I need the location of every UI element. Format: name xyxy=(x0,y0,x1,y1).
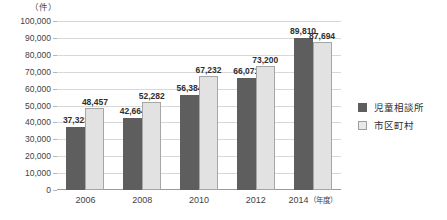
bar-value-label: 48,457 xyxy=(82,98,108,107)
legend-item[interactable]: 児童相談所 xyxy=(358,98,424,116)
bar-group: 66,07173,2002012 xyxy=(237,21,275,190)
y-axis-tickmark xyxy=(53,55,57,56)
bar[interactable]: 66,071 xyxy=(237,78,256,190)
bar-group: 37,32348,4572006 xyxy=(66,21,104,190)
x-axis-tick-label: 2014（年度） xyxy=(289,195,337,206)
y-axis-tick-label: 50,000 xyxy=(25,101,51,110)
y-axis-tick-label: 40,000 xyxy=(25,118,51,127)
bar[interactable]: 67,232 xyxy=(199,76,218,190)
y-axis-tickmark xyxy=(53,156,57,157)
y-axis-tickmark xyxy=(53,72,57,73)
x-axis-tick-label: 2012 xyxy=(246,195,266,205)
y-axis-tick-label: 100,000 xyxy=(20,17,51,26)
y-axis-tick-label: 90,000 xyxy=(25,33,51,42)
bar-value-label: 87,694 xyxy=(309,32,335,41)
legend-label: 児童相談所 xyxy=(374,102,424,113)
bar[interactable]: 87,694 xyxy=(313,42,332,190)
bar[interactable]: 89,810 xyxy=(294,38,313,190)
chart-legend: 児童相談所市区町村 xyxy=(358,98,424,134)
plot-area: 100,00090,00080,00070,00060,00050,00040,… xyxy=(57,21,341,190)
y-axis-tick-label: 10,000 xyxy=(25,169,51,178)
clipped-top-caption xyxy=(60,0,380,2)
bar-value-label: 67,232 xyxy=(196,66,222,75)
y-axis-tickmark xyxy=(53,173,57,174)
y-axis-tickmark xyxy=(53,106,57,107)
x-axis-tick-label: 2006 xyxy=(75,195,95,205)
y-axis-tick-label: 70,000 xyxy=(25,67,51,76)
y-axis-unit-label: （件） xyxy=(30,2,57,12)
bar-value-label: 73,200 xyxy=(252,56,278,65)
bar[interactable]: 48,457 xyxy=(85,108,104,190)
y-axis-tickmark xyxy=(53,89,57,90)
y-axis-tick-label: 0 xyxy=(46,186,51,195)
bar[interactable]: 73,200 xyxy=(256,66,275,190)
legend-swatch xyxy=(358,121,367,130)
bar[interactable]: 52,282 xyxy=(142,102,161,190)
x-axis-tick-label: 2010 xyxy=(189,195,209,205)
bar[interactable]: 37,323 xyxy=(66,127,85,190)
y-axis-tickmark xyxy=(53,139,57,140)
x-axis-tick-label: 2008 xyxy=(132,195,152,205)
legend-label: 市区町村 xyxy=(374,120,414,131)
y-axis-tick-label: 20,000 xyxy=(25,152,51,161)
chart-figure: （件） 100,00090,00080,00070,00060,00050,00… xyxy=(0,0,447,220)
bar[interactable]: 56,384 xyxy=(180,95,199,190)
legend-item[interactable]: 市区町村 xyxy=(358,116,424,134)
bar[interactable]: 42,664 xyxy=(123,118,142,190)
bar-group: 42,66452,2822008 xyxy=(123,21,161,190)
y-axis-tickmark xyxy=(53,38,57,39)
y-axis-tickmark xyxy=(53,21,57,22)
x-axis-unit-suffix: （年度） xyxy=(309,196,337,205)
y-axis-tick-label: 80,000 xyxy=(25,50,51,59)
y-axis-tick-label: 30,000 xyxy=(25,135,51,144)
y-axis-tick-label: 60,000 xyxy=(25,84,51,93)
y-axis-tickmark xyxy=(53,122,57,123)
legend-swatch xyxy=(358,103,367,112)
y-axis-tickmark xyxy=(53,190,57,191)
bar-group: 89,81087,6942014（年度） xyxy=(294,21,332,190)
bar-value-label: 52,282 xyxy=(139,92,165,101)
bar-group: 56,38467,2322010 xyxy=(180,21,218,190)
